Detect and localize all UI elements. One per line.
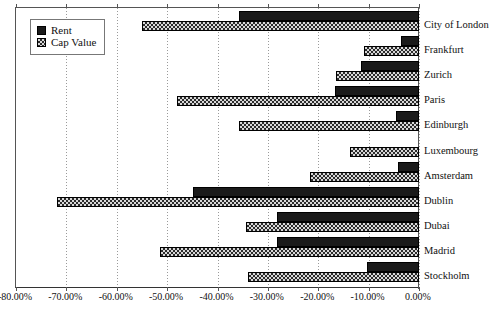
bar-rent xyxy=(239,11,419,21)
category-label: City of London xyxy=(424,20,489,31)
axis-tick xyxy=(66,4,67,8)
bar-cap-value xyxy=(160,247,419,257)
x-tick-label: -40.00% xyxy=(199,292,233,302)
axis-tick xyxy=(369,4,370,8)
bar-rent xyxy=(367,262,419,272)
category-label: Paris xyxy=(424,95,445,106)
gridline xyxy=(117,8,118,287)
x-tick-label: -10.00% xyxy=(351,292,385,302)
axis-tick xyxy=(419,4,420,8)
gridline xyxy=(419,8,420,287)
category-label: Amsterdam xyxy=(424,171,473,182)
x-tick-label: -20.00% xyxy=(300,292,334,302)
checkered-square-icon xyxy=(37,38,46,47)
axis-tick xyxy=(16,4,17,8)
gridline xyxy=(268,8,269,287)
bar-cap-value xyxy=(310,172,419,182)
bar-rent xyxy=(335,86,419,96)
axis-tick xyxy=(318,4,319,8)
category-label: Frankfurt xyxy=(424,45,464,56)
bar-cap-value xyxy=(177,96,419,106)
bar-rent xyxy=(277,237,419,247)
x-tick-label: 0.00% xyxy=(405,292,431,302)
legend-label-rent: Rent xyxy=(51,25,72,36)
solid-black-square-icon xyxy=(37,26,46,35)
category-label: Edinburgh xyxy=(424,120,468,131)
gridline xyxy=(167,8,168,287)
bar-cap-value xyxy=(248,272,419,282)
legend-item-rent: Rent xyxy=(37,25,96,36)
bar-cap-value xyxy=(246,222,419,232)
bar-chart: City of LondonFrankfurtZurichParisEdinbu… xyxy=(0,0,503,316)
bar-cap-value xyxy=(142,21,419,31)
category-label: Zurich xyxy=(424,70,452,81)
category-label: Stockholm xyxy=(424,271,470,282)
bar-cap-value xyxy=(350,147,419,157)
x-tick-label: -70.00% xyxy=(48,292,82,302)
category-label: Luxembourg xyxy=(424,146,478,157)
category-label: Madrid xyxy=(424,246,455,257)
gridline xyxy=(218,8,219,287)
bar-rent xyxy=(401,36,419,46)
axis-tick xyxy=(268,4,269,8)
bar-cap-value xyxy=(57,197,419,207)
axis-tick xyxy=(167,4,168,8)
legend: Rent Cap Value xyxy=(30,19,105,55)
bar-cap-value xyxy=(336,71,419,81)
legend-label-cap-value: Cap Value xyxy=(51,37,96,48)
axis-tick xyxy=(117,4,118,8)
x-tick-label: -60.00% xyxy=(99,292,133,302)
x-tick-label: -30.00% xyxy=(250,292,284,302)
bar-cap-value xyxy=(239,121,419,131)
category-label: Dubai xyxy=(424,221,450,232)
x-tick-label: -50.00% xyxy=(149,292,183,302)
axis-tick xyxy=(218,4,219,8)
bar-rent xyxy=(277,212,419,222)
legend-item-cap-value: Cap Value xyxy=(37,37,96,48)
category-label: Dublin xyxy=(424,196,453,207)
x-tick-label: -80.00% xyxy=(0,292,32,302)
bar-rent xyxy=(361,61,419,71)
bar-rent xyxy=(193,187,419,197)
bar-rent xyxy=(398,162,419,172)
bar-cap-value xyxy=(364,46,419,56)
bar-rent xyxy=(396,111,419,121)
